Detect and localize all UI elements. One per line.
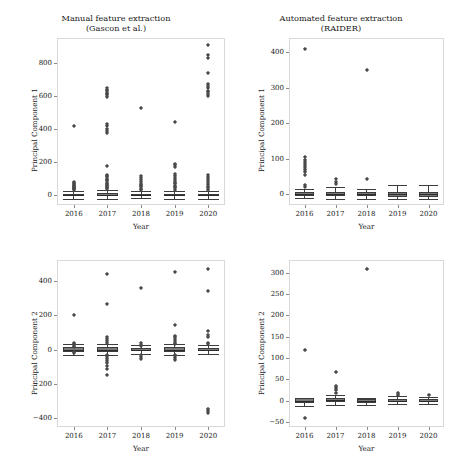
x-tick-mark — [208, 205, 209, 208]
whisker-cap-upper — [326, 187, 345, 188]
box-median — [63, 195, 84, 196]
box-median — [97, 350, 118, 351]
y-tick-label: 800 — [27, 59, 52, 67]
whisker-cap-lower — [295, 406, 314, 407]
box-median — [164, 350, 185, 351]
panel-bottom-right: Principal Component 2 Year −500501001502… — [232, 230, 450, 451]
y-tick-mark — [286, 422, 289, 423]
y-tick-mark — [286, 401, 289, 402]
y-tick-label: 150 — [259, 333, 284, 341]
box-median — [419, 194, 438, 195]
x-tick-mark — [305, 427, 306, 430]
y-tick-label: 200 — [259, 119, 284, 127]
panel-title-top-right: Automated feature extraction (RAIDER) — [232, 14, 450, 33]
y-tick-mark — [286, 52, 289, 53]
y-tick-label: 400 — [259, 48, 284, 56]
box-median — [357, 401, 376, 402]
y-tick-label: 0 — [27, 191, 52, 199]
x-tick-label-2019: 2019 — [166, 210, 184, 218]
y-tick-mark — [286, 358, 289, 359]
x-axis-label-bottom-right: Year — [289, 444, 444, 451]
whisker-cap-lower — [357, 405, 376, 406]
y-tick-label: −200 — [27, 380, 52, 388]
y-tick-label: 0 — [259, 397, 284, 405]
whisker-cap-lower — [388, 404, 407, 405]
x-tick-label-2019: 2019 — [166, 432, 184, 440]
x-tick-mark — [429, 427, 430, 430]
y-tick-label: 300 — [259, 269, 284, 277]
y-tick-mark — [54, 96, 57, 97]
x-tick-label-2016: 2016 — [65, 210, 83, 218]
y-tick-label: 200 — [259, 311, 284, 319]
x-tick-label-2017: 2017 — [98, 432, 116, 440]
y-tick-mark — [286, 379, 289, 380]
y-tick-label: 400 — [27, 277, 52, 285]
x-tick-label-2017: 2017 — [98, 210, 116, 218]
x-tick-mark — [367, 427, 368, 430]
x-tick-mark — [74, 205, 75, 208]
whisker-cap-upper — [326, 395, 345, 396]
whisker-cap-lower — [326, 199, 345, 200]
x-tick-mark — [429, 205, 430, 208]
x-tick-label-2018: 2018 — [358, 210, 376, 218]
whisker-cap-lower — [357, 199, 376, 200]
x-tick-mark — [141, 427, 142, 430]
y-tick-mark — [286, 315, 289, 316]
x-tick-label-2019: 2019 — [389, 210, 407, 218]
y-tick-label: 400 — [27, 125, 52, 133]
x-tick-label-2016: 2016 — [65, 432, 83, 440]
box-median — [419, 401, 438, 402]
whisker-cap-lower — [164, 199, 185, 200]
box-median — [326, 400, 345, 401]
y-tick-label: 200 — [27, 158, 52, 166]
y-tick-mark — [286, 194, 289, 195]
x-tick-label-2017: 2017 — [327, 432, 345, 440]
y-tick-mark — [54, 129, 57, 130]
y-tick-mark — [54, 63, 57, 64]
panel-top-right: Automated feature extraction (RAIDER) Pr… — [232, 0, 450, 230]
panel-top-left: Manual feature extraction (Gascon et al.… — [0, 0, 232, 230]
whisker-cap-upper — [357, 189, 376, 190]
y-tick-label: 0 — [259, 190, 284, 198]
x-tick-label-2019: 2019 — [389, 432, 407, 440]
y-tick-mark — [54, 281, 57, 282]
x-tick-mark — [74, 427, 75, 430]
y-tick-mark — [286, 294, 289, 295]
y-tick-label: 100 — [259, 354, 284, 362]
x-tick-mark — [175, 205, 176, 208]
y-tick-label: 600 — [27, 92, 52, 100]
y-tick-label: 50 — [259, 375, 284, 383]
x-tick-label-2020: 2020 — [420, 210, 438, 218]
box-median — [357, 194, 376, 195]
whisker-cap-lower — [131, 198, 152, 199]
x-tick-label-2016: 2016 — [296, 432, 314, 440]
box-median — [388, 401, 407, 402]
x-tick-label-2020: 2020 — [199, 210, 217, 218]
whisker-cap-lower — [198, 199, 219, 200]
y-tick-mark — [54, 384, 57, 385]
y-tick-label: 0 — [27, 346, 52, 354]
box-median — [131, 350, 152, 351]
y-tick-mark — [54, 418, 57, 419]
y-tick-mark — [54, 195, 57, 196]
whisker-cap-lower — [198, 354, 219, 355]
panel-title-top-left: Manual feature extraction (Gascon et al.… — [0, 14, 232, 33]
x-tick-mark — [107, 205, 108, 208]
box-median — [388, 194, 407, 195]
x-tick-label-2018: 2018 — [132, 432, 150, 440]
y-tick-mark — [286, 123, 289, 124]
whisker-cap-upper — [295, 189, 314, 190]
box-median — [198, 195, 219, 196]
x-axis-label-bottom-left: Year — [57, 444, 225, 451]
x-tick-label-2018: 2018 — [358, 432, 376, 440]
box-median — [295, 194, 314, 195]
box-median — [295, 401, 314, 402]
box-median — [198, 350, 219, 351]
x-tick-mark — [208, 427, 209, 430]
whisker-cap-lower — [326, 405, 345, 406]
x-tick-mark — [141, 205, 142, 208]
y-tick-mark — [286, 337, 289, 338]
whisker-cap-upper — [388, 185, 407, 186]
x-tick-label-2020: 2020 — [420, 432, 438, 440]
y-tick-mark — [54, 350, 57, 351]
